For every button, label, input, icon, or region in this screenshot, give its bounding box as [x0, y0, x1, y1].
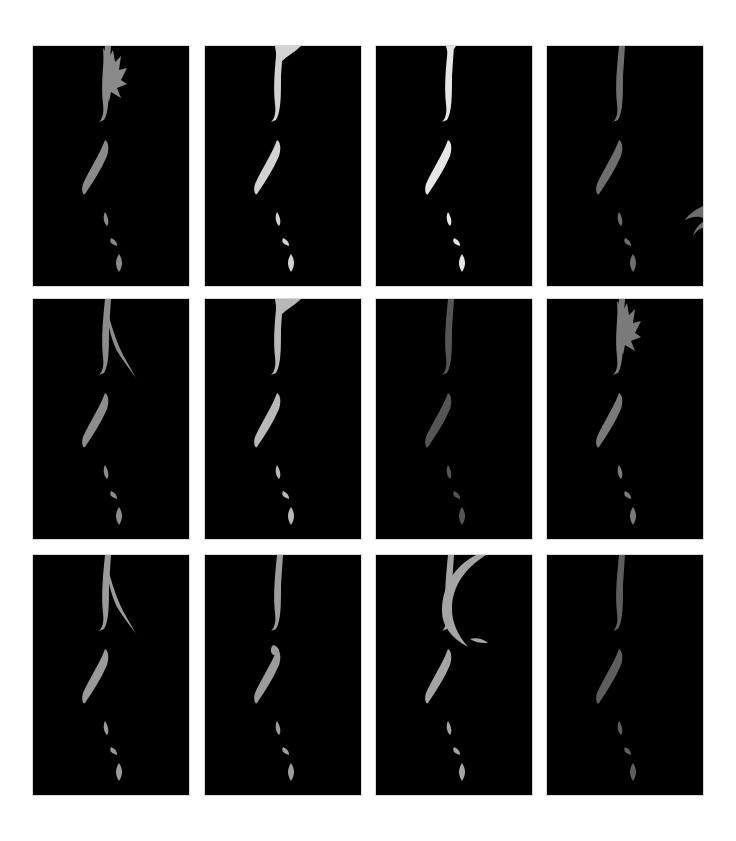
profile-silhouette-icon: [547, 46, 703, 286]
profile-silhouette-icon: [547, 299, 703, 539]
photo-panel: Rim-lit profile silhouette 5: [33, 299, 189, 539]
profile-silhouette-icon: [547, 555, 703, 795]
photo-panel: Rim-lit profile silhouette 3: [376, 46, 532, 286]
profile-silhouette-icon: [376, 555, 532, 795]
photo-panel: Rim-lit profile silhouette 11: [376, 555, 532, 795]
profile-silhouette-icon: [33, 299, 189, 539]
profile-silhouette-icon: [376, 46, 532, 286]
profile-silhouette-icon: [376, 299, 532, 539]
photo-panel: Rim-lit profile silhouette 8: [547, 299, 703, 539]
profile-silhouette-icon: [33, 46, 189, 286]
profile-silhouette-icon: [205, 299, 361, 539]
photo-panel: Rim-lit profile silhouette 12: [547, 555, 703, 795]
photo-panel: Rim-lit profile silhouette 4: [547, 46, 703, 286]
profile-silhouette-icon: [33, 555, 189, 795]
photo-panel: Rim-lit profile silhouette 6: [205, 299, 361, 539]
profile-silhouette-icon: [205, 555, 361, 795]
profile-silhouette-icon: [205, 46, 361, 286]
photo-panel: Rim-lit profile silhouette 7: [376, 299, 532, 539]
photo-panel: Rim-lit profile silhouette 10: [205, 555, 361, 795]
photo-panel: Rim-lit profile silhouette 1: [33, 46, 189, 286]
photo-panel: Rim-lit profile silhouette 2: [205, 46, 361, 286]
photo-panel: Rim-lit profile silhouette 9: [33, 555, 189, 795]
